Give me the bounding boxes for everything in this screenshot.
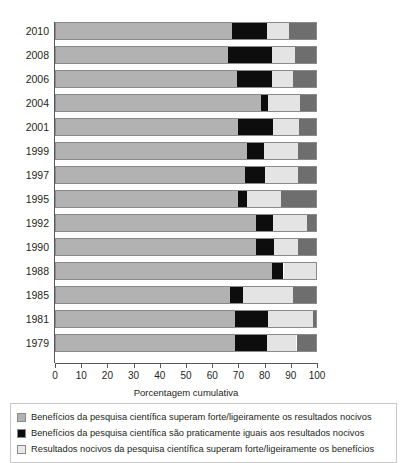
bar-segment bbox=[295, 47, 316, 63]
x-tick-label: 100 bbox=[309, 370, 326, 381]
y-tick-label: 1995 bbox=[3, 192, 49, 206]
bar-segment bbox=[56, 167, 245, 183]
benefits-swatch-icon bbox=[17, 413, 26, 422]
bar-segment bbox=[268, 311, 314, 327]
y-tick-label: 1979 bbox=[3, 336, 49, 350]
x-tick bbox=[81, 363, 82, 368]
bar-segment bbox=[56, 239, 256, 255]
bar-segment bbox=[298, 167, 316, 183]
stacked-bar bbox=[55, 262, 317, 280]
y-tick-label: 1997 bbox=[3, 168, 49, 182]
x-tick bbox=[291, 363, 292, 368]
bar-row: 2004 bbox=[55, 94, 317, 112]
bar-segment bbox=[56, 215, 256, 231]
bar-segment bbox=[264, 143, 298, 159]
bar-segment bbox=[265, 167, 298, 183]
chart-legend: Benefícios da pesquisa científica supera… bbox=[10, 403, 397, 463]
stacked-bar bbox=[55, 286, 317, 304]
bar-row: 2010 bbox=[55, 22, 317, 40]
y-tick-label: 1981 bbox=[3, 312, 49, 326]
bar-segment bbox=[245, 167, 266, 183]
x-tick bbox=[55, 363, 56, 368]
bar-segment bbox=[228, 47, 272, 63]
bar-segment bbox=[273, 119, 299, 135]
x-tick bbox=[317, 363, 318, 368]
bar-segment bbox=[230, 287, 243, 303]
bar-segment bbox=[56, 311, 235, 327]
bar-segment bbox=[299, 119, 316, 135]
bar-row: 1981 bbox=[55, 310, 317, 328]
y-tick-label: 2004 bbox=[3, 96, 49, 110]
bar-segment bbox=[56, 95, 261, 111]
bar-segment bbox=[237, 71, 272, 87]
x-axis-title: Porcentagem cumulativa bbox=[0, 387, 372, 398]
x-tick bbox=[160, 363, 161, 368]
bar-segment bbox=[267, 335, 297, 351]
stacked-bar bbox=[55, 94, 317, 112]
legend-label-benefits: Benefícios da pesquisa científica supera… bbox=[31, 412, 372, 423]
bar-row: 1979 bbox=[55, 334, 317, 352]
bar-row: 2006 bbox=[55, 70, 317, 88]
y-tick-label: 2008 bbox=[3, 48, 49, 62]
stacked-bar bbox=[55, 46, 317, 64]
bar-segment bbox=[284, 263, 317, 279]
bar-segment bbox=[273, 215, 307, 231]
bar-segment bbox=[298, 143, 316, 159]
stacked-bar bbox=[55, 142, 317, 160]
y-tick-label: 2001 bbox=[3, 120, 49, 134]
bar-segment bbox=[272, 47, 295, 63]
x-tick bbox=[212, 363, 213, 368]
bar-row: 1985 bbox=[55, 286, 317, 304]
legend-item-benefits: Benefícios da pesquisa científica supera… bbox=[17, 409, 391, 425]
bar-segment bbox=[293, 71, 316, 87]
bar-segment bbox=[243, 287, 292, 303]
x-tick-label: 60 bbox=[207, 370, 218, 381]
x-tick-label: 90 bbox=[285, 370, 296, 381]
x-tick bbox=[134, 363, 135, 368]
bar-segment bbox=[235, 335, 266, 351]
bar-segment bbox=[238, 191, 247, 207]
x-tick bbox=[238, 363, 239, 368]
x-tick-label: 20 bbox=[102, 370, 113, 381]
bar-segment bbox=[235, 311, 268, 327]
bar-segment bbox=[56, 287, 230, 303]
legend-item-harm: Resultados nocivos da pesquisa científic… bbox=[17, 441, 391, 457]
legend-label-equal: Benefícios da pesquisa científica são pr… bbox=[31, 428, 364, 439]
stacked-bar bbox=[55, 238, 317, 256]
stacked-bar bbox=[55, 214, 317, 232]
bar-segment bbox=[56, 263, 272, 279]
bar-segment bbox=[307, 215, 316, 231]
bar-row: 1999 bbox=[55, 142, 317, 160]
bar-segment bbox=[267, 23, 289, 39]
bar-segment bbox=[256, 239, 274, 255]
x-tick-label: 30 bbox=[128, 370, 139, 381]
bar-segment bbox=[56, 335, 235, 351]
x-tick bbox=[265, 363, 266, 368]
y-tick-label: 1985 bbox=[3, 288, 49, 302]
bar-segment bbox=[56, 23, 232, 39]
x-tick-label: 0 bbox=[52, 370, 58, 381]
y-tick-label: 2010 bbox=[3, 24, 49, 38]
bar-segment bbox=[247, 143, 264, 159]
bar-segment bbox=[298, 239, 316, 255]
x-tick-label: 40 bbox=[154, 370, 165, 381]
bar-segment bbox=[56, 71, 237, 87]
bar-row: 1990 bbox=[55, 238, 317, 256]
equal-swatch-icon bbox=[17, 429, 26, 438]
bar-segment bbox=[313, 311, 316, 327]
x-tick bbox=[186, 363, 187, 368]
x-tick bbox=[107, 363, 108, 368]
stacked-bar bbox=[55, 166, 317, 184]
stacked-bar bbox=[55, 22, 317, 40]
bar-segment bbox=[232, 23, 267, 39]
x-tick-label: 50 bbox=[180, 370, 191, 381]
bar-segment bbox=[268, 95, 301, 111]
legend-label-harm: Resultados nocivos da pesquisa científic… bbox=[31, 444, 374, 455]
bar-row: 1997 bbox=[55, 166, 317, 184]
harm-swatch-icon bbox=[17, 445, 26, 454]
bar-segment bbox=[293, 287, 316, 303]
stacked-bar bbox=[55, 190, 317, 208]
y-tick-label: 1990 bbox=[3, 240, 49, 254]
x-tick-label: 70 bbox=[233, 370, 244, 381]
